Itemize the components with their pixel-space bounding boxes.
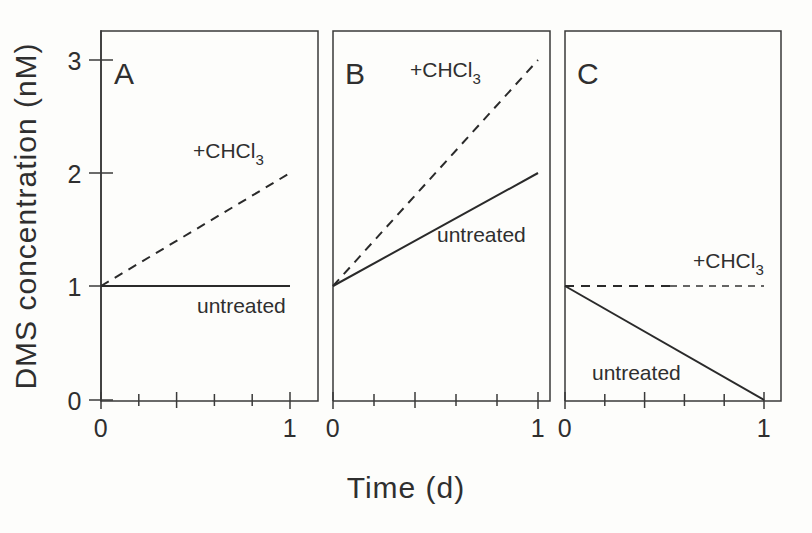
panel-a-untreated-label: untreated [197, 294, 286, 317]
panel-a-x-label-1: 1 [283, 414, 297, 442]
panel-a-series-chcl3 [101, 173, 290, 286]
panel-c-x-label-0: 0 [558, 414, 572, 442]
y-tick-label-1: 1 [68, 273, 82, 301]
dms-concentration-figure: 3 2 1 0 DMS concentration (nM) 0 1 A [0, 0, 812, 533]
panel-a-chcl3-label: +CHCl3 [193, 139, 264, 168]
panel-c-letter: C [577, 57, 599, 90]
panel-b: 0 1 B +CHCl3 untreated [326, 31, 550, 442]
panel-b-letter: B [345, 57, 365, 90]
figure-root: 3 2 1 0 DMS concentration (nM) 0 1 A [0, 0, 812, 533]
panel-a-letter: A [114, 57, 134, 90]
panel-a-x-label-0: 0 [94, 414, 108, 442]
y-axis-title: DMS concentration (nM) [9, 42, 42, 389]
panel-a: 0 1 A +CHCl3 untreated [94, 31, 318, 442]
y-axis: 3 2 1 0 DMS concentration (nM) [9, 31, 113, 415]
panel-b-untreated-label: untreated [437, 223, 526, 246]
panel-c-chcl3-label: +CHCl3 [693, 249, 764, 278]
panel-b-plot-box [333, 31, 550, 401]
panel-c: 0 1 C +CHCl3 untreated [558, 31, 781, 442]
y-tick-label-0: 0 [68, 387, 82, 415]
panel-b-series-chcl3 [333, 60, 538, 286]
x-axis-title: Time (d) [347, 471, 466, 504]
panel-b-x-label-1: 1 [531, 414, 545, 442]
y-tick-label-3: 3 [68, 47, 82, 75]
panel-c-x-label-1: 1 [757, 414, 771, 442]
y-tick-label-2: 2 [68, 160, 82, 188]
panel-c-untreated-label: untreated [592, 361, 681, 384]
panel-b-chcl3-label: +CHCl3 [410, 58, 481, 87]
panel-b-x-label-0: 0 [326, 414, 340, 442]
